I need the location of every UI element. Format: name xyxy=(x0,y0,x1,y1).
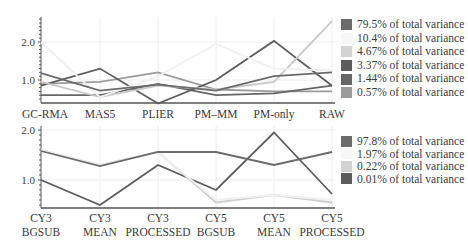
legend-item: 0.22% of total variance xyxy=(341,160,464,173)
legend-item: 4.67% of total variance xyxy=(341,45,464,59)
series-line xyxy=(41,41,332,104)
bottom-category-label: CY3 xyxy=(147,212,169,224)
legend-swatch xyxy=(341,87,352,98)
legend-item: 10.4% of total variance xyxy=(341,32,464,46)
top-legend: 79.5% of total variance 10.4% of total v… xyxy=(341,18,464,100)
bottom-category-label: BGSUB xyxy=(197,226,236,238)
legend-swatch xyxy=(341,19,352,30)
series-line xyxy=(41,151,332,166)
legend-swatch xyxy=(341,60,352,71)
legend-label: 0.01% of total variance xyxy=(357,173,464,186)
legend-item: 0.01% of total variance xyxy=(341,173,464,186)
legend-item: 79.5% of total variance xyxy=(341,18,464,32)
legend-swatch xyxy=(341,148,352,159)
series-line xyxy=(41,133,332,206)
legend-item: 0.57% of total variance xyxy=(341,86,464,100)
top-category-label: PLIER xyxy=(142,108,174,120)
bottom-category-label: CY5 xyxy=(263,212,285,224)
top-category-label: PM–MM xyxy=(195,108,238,120)
legend-swatch xyxy=(341,173,352,184)
bottom-series-lines xyxy=(41,133,332,206)
bottom-category-label: PROCESSED xyxy=(299,226,364,238)
legend-swatch xyxy=(341,136,352,147)
bottom-category-label: CY3 xyxy=(89,212,111,224)
top-series-lines xyxy=(41,21,332,104)
legend-swatch xyxy=(341,161,352,172)
bottom-category-label: MEAN xyxy=(83,226,118,238)
legend-swatch xyxy=(341,74,352,85)
bottom-y-axis xyxy=(38,126,41,208)
legend-label: 0.22% of total variance xyxy=(357,160,464,173)
legend-swatch xyxy=(341,46,352,57)
bottom-category-label: CY5 xyxy=(205,212,227,224)
legend-label: 10.4% of total variance xyxy=(357,32,464,46)
legend-item: 97.8% of total variance xyxy=(341,135,464,148)
bottom-chart: 2.0 1.0 CY3 BGSUB CY3 MEAN CY3 PROCESSED… xyxy=(21,124,364,238)
top-chart: 2.0 1.0 GC-RMA MAS5 PLIER PM–MM PM-only … xyxy=(21,17,345,121)
legend-item: 3.37% of total variance xyxy=(341,59,464,73)
legend-label: 3.37% of total variance xyxy=(357,59,464,73)
bottom-category-label: PROCESSED xyxy=(125,226,190,238)
bottom-ytick-2: 2.0 xyxy=(21,124,35,136)
top-ytick-2: 2.0 xyxy=(21,36,35,48)
legend-item: 1.97% of total variance xyxy=(341,148,464,161)
legend-swatch xyxy=(341,33,352,44)
top-category-label: PM-only xyxy=(254,108,295,121)
top-category-label: MAS5 xyxy=(85,108,116,120)
legend-label: 4.67% of total variance xyxy=(357,45,464,59)
legend-label: 1.97% of total variance xyxy=(357,148,464,161)
legend-label: 97.8% of total variance xyxy=(357,135,464,148)
top-ytick-1: 1.0 xyxy=(21,74,35,86)
bottom-category-label: CY3 xyxy=(30,212,52,224)
top-y-axis xyxy=(38,17,41,103)
bottom-ytick-1: 1.0 xyxy=(21,174,35,186)
bottom-category-label: CY5 xyxy=(321,212,343,224)
bottom-category-label: MEAN xyxy=(257,226,292,238)
legend-label: 79.5% of total variance xyxy=(357,18,464,32)
bottom-category-label: BGSUB xyxy=(22,226,61,238)
series-line xyxy=(41,150,332,200)
bottom-legend: 97.8% of total variance 1.97% of total v… xyxy=(341,135,464,185)
legend-label: 1.44% of total variance xyxy=(357,72,464,86)
legend-label: 0.57% of total variance xyxy=(357,86,464,100)
top-category-label: RAW xyxy=(319,108,345,120)
top-category-label: GC-RMA xyxy=(22,108,69,120)
legend-item: 1.44% of total variance xyxy=(341,72,464,86)
